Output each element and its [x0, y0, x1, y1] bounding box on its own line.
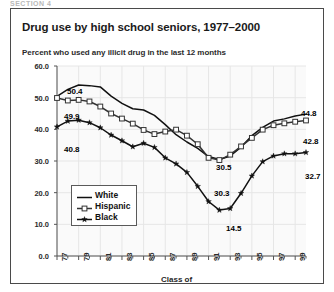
data-label-black-end: 32.7: [305, 172, 321, 181]
legend-label: Hispanic: [95, 201, 130, 211]
x-axis-tick-label: 89: [190, 253, 199, 261]
chart-legend: WhiteHispanicBlack: [71, 185, 137, 226]
legend-star-icon: [76, 211, 93, 222]
x-axis-tick-label: 97: [277, 253, 286, 261]
x-axis-tick-label: 99: [298, 253, 307, 261]
legend-open-square-icon: [76, 200, 93, 211]
chart-card: Drug use by high school seniors, 1977–20…: [10, 8, 324, 284]
x-axis-tick-label: 81: [104, 253, 113, 261]
y-axis-tick-label: 60.0: [23, 62, 49, 71]
x-axis-tick-label: 85: [147, 253, 156, 261]
legend-label: Black: [95, 212, 118, 222]
legend-label: White: [95, 190, 118, 200]
data-label-white-end: 44.8: [301, 109, 317, 118]
screenshot-root: SECTION 4 Drug use by high school senior…: [0, 0, 334, 292]
y-axis-tick-label: 40.0: [23, 125, 49, 134]
x-axis-tick-label: 93: [233, 253, 242, 261]
x-axis-tick-label: 95: [255, 253, 264, 261]
x-axis-tick-label: 77: [60, 253, 69, 261]
legend-item-white: White: [76, 189, 131, 200]
x-axis-tick-label: 79: [82, 253, 91, 261]
x-axis-tick-label: 91: [212, 253, 221, 261]
y-axis-tick-label: 20.0: [23, 188, 49, 197]
y-axis-tick-label: 30.0: [23, 157, 49, 166]
data-label-hispanic-min: 30.3: [214, 189, 230, 198]
y-axis-tick-label: 0.0: [23, 252, 49, 261]
page-header-cut-text: SECTION 4: [10, 0, 51, 7]
legend-item-black: Black: [76, 211, 131, 222]
y-axis-tick-label: 50.0: [23, 93, 49, 102]
data-label-black-start: 40.8: [64, 145, 80, 154]
data-label-hispanic-end: 42.8: [303, 137, 319, 146]
data-label-white-start: 50.4: [67, 87, 83, 96]
x-axis-title: Class of: [161, 275, 192, 284]
plot-area: 0.010.020.030.040.050.060.0 777981838587…: [11, 9, 325, 285]
x-axis-tick-label: 87: [168, 253, 177, 261]
x-axis-tick-label: 83: [125, 253, 134, 261]
data-label-white-min: 30.5: [216, 163, 232, 172]
legend-line-icon: [76, 189, 93, 200]
data-label-hispanic-start: 49.9: [64, 112, 80, 121]
y-axis-tick-label: 10.0: [23, 220, 49, 229]
line-chart-svg: [11, 9, 325, 285]
legend-item-hispanic: Hispanic: [76, 200, 131, 211]
data-label-black-min: 14.5: [226, 224, 242, 233]
